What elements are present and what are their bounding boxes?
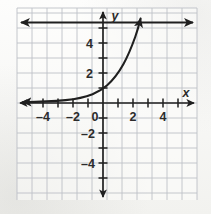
x-tick-label-2: 2 xyxy=(130,110,137,124)
y-tick-label-2: 2 xyxy=(86,67,93,81)
y-tick-label-neg2: –2 xyxy=(81,127,95,141)
y-tick-label-4: 4 xyxy=(86,37,93,51)
x-tick-label-neg4: –4 xyxy=(36,110,50,124)
coordinate-plot: –4 –2 0 2 4 4 2 –2 –4 x y xyxy=(0,0,211,214)
graph-figure: –4 –2 0 2 4 4 2 –2 –4 x y xyxy=(0,0,211,214)
y-tick-label-neg4: –4 xyxy=(81,157,95,171)
y-axis-label: y xyxy=(111,9,120,23)
x-tick-label-neg2: –2 xyxy=(66,110,80,124)
origin-label: 0 xyxy=(92,110,99,124)
x-tick-label-4: 4 xyxy=(160,110,167,124)
x-axis-label: x xyxy=(182,86,191,100)
